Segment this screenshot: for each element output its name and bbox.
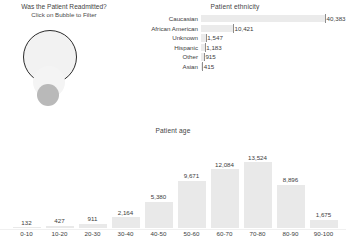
age-value-label: 427 xyxy=(46,217,74,224)
ethnicity-bar-track: 415 xyxy=(201,62,346,72)
patient-ethnicity-bar-list: Caucasian40,383African American10,421Unk… xyxy=(124,14,346,72)
bubble-filter-title: Was the Patient Readmitted? xyxy=(0,3,128,11)
age-value-label: 1,675 xyxy=(310,211,338,218)
ethnicity-bar-row[interactable]: African American10,421 xyxy=(124,24,346,34)
ethnicity-bar-row[interactable]: Caucasian40,383 xyxy=(124,14,346,24)
ethnicity-bar-track: 40,383 xyxy=(201,14,346,24)
age-axis-tick-label: 60-70 xyxy=(211,230,239,237)
age-bar-column[interactable]: 427 xyxy=(46,138,74,228)
ethnicity-value-label: 1,547 xyxy=(206,33,223,43)
patient-ethnicity-title: Patient ethnicity xyxy=(124,3,346,10)
ethnicity-bar-row[interactable]: Hispanic1,183 xyxy=(124,43,346,53)
age-axis-tick-label: 70-80 xyxy=(244,230,272,237)
ethnicity-value-label: 10,421 xyxy=(233,24,254,34)
ethnicity-category-label: Other xyxy=(124,52,201,62)
age-bar[interactable] xyxy=(145,202,173,228)
ethnicity-bar[interactable] xyxy=(201,25,233,32)
ethnicity-bar-track: 1,183 xyxy=(201,43,346,53)
patient-age-title: Patient age xyxy=(0,127,346,134)
age-axis-tick-label: 90-100 xyxy=(310,230,338,237)
patient-age-bar-plot: 1324279112,1645,3809,67112,08413,5248,89… xyxy=(10,138,340,228)
age-bar[interactable] xyxy=(310,220,338,228)
bubble-small-solid[interactable] xyxy=(37,84,59,106)
age-bar[interactable] xyxy=(244,162,272,228)
age-bar[interactable] xyxy=(211,169,239,228)
patient-age-baseline xyxy=(0,229,346,230)
age-bar-column[interactable]: 13,524 xyxy=(244,138,272,228)
ethnicity-value-label: 415 xyxy=(202,62,214,72)
age-value-label: 2,164 xyxy=(112,209,140,216)
patient-age-panel: Patient age 1324279112,1645,3809,67112,0… xyxy=(0,124,346,244)
age-axis-tick-label: 0-10 xyxy=(13,230,41,237)
ethnicity-bar-track: 10,421 xyxy=(201,24,346,34)
age-bar[interactable] xyxy=(178,181,206,228)
age-bar-column[interactable]: 132 xyxy=(13,138,41,228)
age-bar-column[interactable]: 9,671 xyxy=(178,138,206,228)
ethnicity-category-label: Hispanic xyxy=(124,43,201,53)
age-bar-column[interactable]: 1,675 xyxy=(310,138,338,228)
age-bar[interactable] xyxy=(277,185,305,228)
ethnicity-category-label: Caucasian xyxy=(124,14,201,24)
ethnicity-category-label: Asian xyxy=(124,62,201,72)
age-axis-tick-label: 40-50 xyxy=(145,230,173,237)
ethnicity-value-label: 1,183 xyxy=(205,43,222,53)
age-bar-column[interactable]: 2,164 xyxy=(112,138,140,228)
bubble-filter-heading: Was the Patient Readmitted? Click on Bub… xyxy=(0,3,128,19)
ethnicity-bar-row[interactable]: Asian415 xyxy=(124,62,346,72)
ethnicity-category-label: Unknown xyxy=(124,33,201,43)
age-axis-tick-label: 10-20 xyxy=(46,230,74,237)
bubble-filter-subtitle: Click on Bubble to Filter xyxy=(0,11,128,19)
age-bar[interactable] xyxy=(112,217,140,228)
age-value-label: 5,380 xyxy=(145,193,173,200)
age-value-label: 8,896 xyxy=(277,176,305,183)
ethnicity-value-label: 915 xyxy=(204,52,216,62)
age-bar-column[interactable]: 8,896 xyxy=(277,138,305,228)
ethnicity-bar[interactable] xyxy=(201,15,325,22)
age-value-label: 9,671 xyxy=(178,172,206,179)
age-value-label: 12,084 xyxy=(211,161,239,168)
age-axis-tick-label: 20-30 xyxy=(79,230,107,237)
age-value-label: 13,524 xyxy=(244,154,272,161)
dashboard-root: Was the Patient Readmitted? Click on Bub… xyxy=(0,0,346,244)
age-bar-column[interactable]: 12,084 xyxy=(211,138,239,228)
readmission-bubble-filter-panel: Was the Patient Readmitted? Click on Bub… xyxy=(0,0,128,118)
age-axis-tick-label: 30-40 xyxy=(112,230,140,237)
age-value-label: 911 xyxy=(79,215,107,222)
age-value-label: 132 xyxy=(13,219,41,226)
age-bar[interactable] xyxy=(79,224,107,228)
age-axis-tick-label: 80-90 xyxy=(277,230,305,237)
ethnicity-bar-track: 1,547 xyxy=(201,33,346,43)
age-bar-column[interactable]: 5,380 xyxy=(145,138,173,228)
ethnicity-bar-row[interactable]: Other915 xyxy=(124,52,346,62)
ethnicity-bar-row[interactable]: Unknown1,547 xyxy=(124,33,346,43)
ethnicity-value-label: 40,383 xyxy=(325,14,346,24)
patient-ethnicity-panel: Patient ethnicity Caucasian40,383African… xyxy=(124,0,346,74)
ethnicity-bar-track: 915 xyxy=(201,52,346,62)
ethnicity-category-label: African American xyxy=(124,24,201,34)
footer-cutoff-strip xyxy=(0,239,346,244)
age-bar-column[interactable]: 911 xyxy=(79,138,107,228)
age-axis-tick-label: 50-60 xyxy=(178,230,206,237)
